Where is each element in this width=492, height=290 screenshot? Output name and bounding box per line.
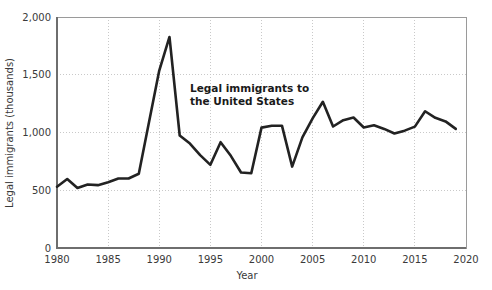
x-tick-label: 1990 [147, 254, 172, 265]
x-tick-label: 2015 [402, 254, 427, 265]
x-tick-labels: 198019851990199520002005201020152020 [44, 254, 478, 265]
x-tick-label: 2010 [351, 254, 376, 265]
x-tick-label: 2000 [249, 254, 274, 265]
x-tick-label: 2020 [453, 254, 478, 265]
annotation-line-1: Legal immigrants to [190, 82, 309, 94]
x-tick-label: 1985 [95, 254, 120, 265]
x-axis-title: Year [235, 270, 258, 281]
x-tick-label: 1995 [198, 254, 223, 265]
y-axis-title: Legal immigrants (thousands) [4, 58, 15, 208]
data-series-legal-immigrants [57, 37, 456, 188]
series-annotation: Legal immigrants to the United States [190, 82, 309, 107]
y-tick-label: 0 [45, 243, 51, 254]
y-tick-label: 1,500 [22, 69, 51, 80]
x-tick-label: 1980 [44, 254, 69, 265]
y-tick-label: 2,000 [22, 12, 51, 23]
series-line-legal-immigrants [57, 37, 456, 188]
y-tick-label: 1,000 [22, 127, 51, 138]
y-tick-label: 500 [32, 185, 51, 196]
annotation-line-2: the United States [190, 95, 294, 107]
x-tick-label: 2005 [300, 254, 325, 265]
y-tick-labels: 05001,0001,5002,000 [22, 12, 51, 254]
line-chart: 05001,0001,5002,000 19801985199019952000… [0, 0, 492, 290]
chart-container: 05001,0001,5002,000 19801985199019952000… [0, 0, 492, 290]
